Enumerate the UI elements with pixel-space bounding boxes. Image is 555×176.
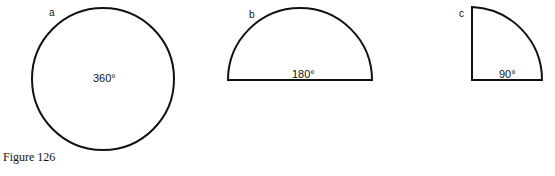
panel-b-angle: 180° <box>292 68 315 80</box>
figure-caption: Figure 126 <box>3 150 55 165</box>
panel-a-angle: 360° <box>93 72 116 84</box>
panel-c: c 90° <box>459 7 542 80</box>
panel-b: b 180° <box>228 8 372 80</box>
panel-c-angle: 90° <box>499 68 516 80</box>
angle-diagram: a 360° b 180° c 90° <box>0 0 555 176</box>
panel-a: a 360° <box>32 7 174 150</box>
panel-c-label: c <box>459 8 464 19</box>
panel-b-label: b <box>249 9 255 20</box>
panel-a-label: a <box>49 7 55 18</box>
